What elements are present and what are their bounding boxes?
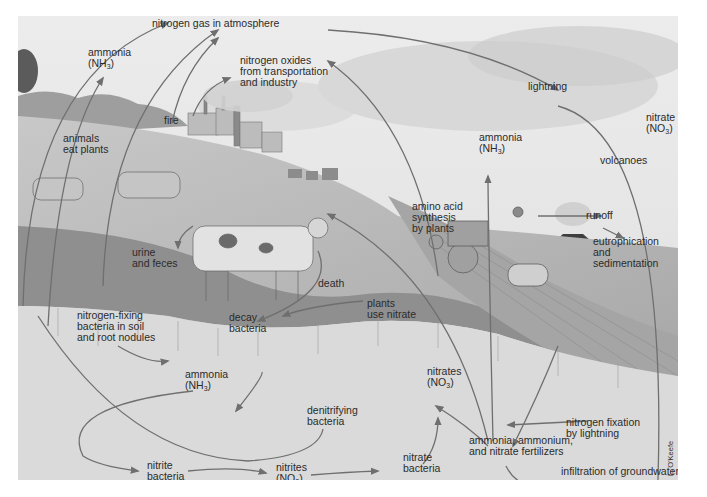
- label-nitrogen-fixing-bacteria: nitrogen-fixing bacteria in soil and roo…: [77, 310, 155, 343]
- label-volcanoes: volcanoes: [600, 155, 647, 166]
- label-nitrate-top: nitrate (NO3): [646, 112, 675, 134]
- label-nitrates-soil: nitrates (NO3): [427, 366, 461, 388]
- label-infiltration-groundwater: infiltration of groundwater: [561, 466, 678, 477]
- label-death: death: [318, 278, 344, 289]
- label-urine-feces: urine and feces: [132, 247, 178, 269]
- label-lightning: lightning: [528, 81, 567, 92]
- label-nitrate-bacteria: nitrate bacteria: [403, 452, 440, 474]
- label-amino-acid-synthesis: amino acid synthesis by plants: [412, 201, 463, 234]
- label-nitrites: nitrites (NO2): [276, 462, 307, 480]
- label-nitrogen-fixation-lightning: nitrogen fixation by lightning: [566, 417, 640, 439]
- label-fertilizers: ammonia, ammonium, and nitrate fertilize…: [469, 435, 573, 457]
- label-fire: fire: [164, 115, 179, 126]
- label-nitrite-bacteria: nitrite bacteria: [147, 460, 184, 480]
- label-nitrogen-gas: nitrogen gas in atmosphere: [152, 18, 279, 29]
- label-runoff: runoff: [586, 210, 613, 221]
- label-denitrifying-bacteria: denitrifying bacteria: [307, 405, 358, 427]
- artist-credit: L. O'Keefe: [666, 441, 675, 476]
- label-decay-bacteria: decay bacteria: [229, 312, 266, 334]
- label-ammonia-top: ammonia (NH3): [88, 47, 131, 69]
- label-animals-eat-plants: animals eat plants: [63, 133, 109, 155]
- label-eutrophication: eutrophication and sedimentation: [593, 236, 659, 269]
- label-ammonia-soil: ammonia (NH3): [185, 369, 228, 391]
- nitrogen-cycle-illustration: nitrogen gas in atmosphere ammonia (NH3)…: [18, 16, 678, 480]
- label-plants-use-nitrate: plants use nitrate: [367, 298, 416, 320]
- label-nitrogen-oxides: nitrogen oxides from transportation and …: [240, 55, 328, 88]
- label-ammonia-mid: ammonia (NH3): [479, 132, 522, 154]
